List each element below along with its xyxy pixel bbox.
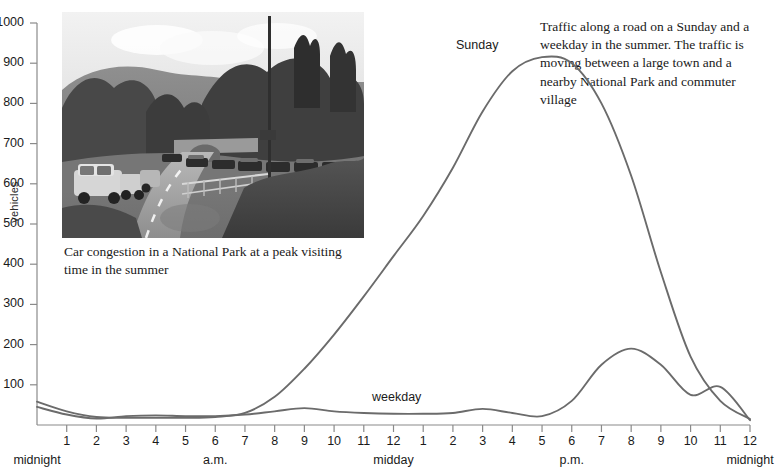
y-tick-200: 200 (0, 337, 24, 351)
x-tick-7: 7 (231, 434, 259, 448)
y-tick-800: 800 (0, 95, 24, 109)
y-tick-1000: 1000 (0, 15, 24, 29)
x-tick-9: 9 (290, 434, 318, 448)
x-tick-16: 4 (498, 434, 526, 448)
x-tick-10: 10 (320, 434, 348, 448)
x-tick-12: 12 (380, 434, 408, 448)
x-tick-6: 6 (201, 434, 229, 448)
x-tick-22: 10 (677, 434, 705, 448)
x-tick-19: 7 (587, 434, 615, 448)
x-period-0: midnight (0, 453, 82, 467)
y-tick-700: 700 (0, 136, 24, 150)
x-tick-23: 11 (706, 434, 734, 448)
y-tick-100: 100 (0, 377, 24, 391)
x-tick-21: 9 (647, 434, 675, 448)
x-period-3: p.m. (527, 453, 617, 467)
x-tick-8: 8 (261, 434, 289, 448)
y-tick-600: 600 (0, 176, 24, 190)
x-tick-3: 3 (112, 434, 140, 448)
x-tick-13: 1 (409, 434, 437, 448)
x-period-2: midday (349, 453, 439, 467)
x-tick-5: 5 (172, 434, 200, 448)
x-tick-14: 2 (439, 434, 467, 448)
y-tick-900: 900 (0, 55, 24, 69)
x-tick-17: 5 (528, 434, 556, 448)
y-tick-500: 500 (0, 216, 24, 230)
x-tick-2: 2 (82, 434, 110, 448)
x-tick-18: 6 (558, 434, 586, 448)
x-tick-1: 1 (53, 434, 81, 448)
x-period-4: midnight (705, 453, 779, 467)
y-tick-300: 300 (0, 296, 24, 310)
x-period-1: a.m. (170, 453, 260, 467)
x-tick-11: 11 (350, 434, 378, 448)
x-tick-15: 3 (469, 434, 497, 448)
x-tick-20: 8 (617, 434, 645, 448)
y-tick-400: 400 (0, 256, 24, 270)
x-tick-4: 4 (142, 434, 170, 448)
x-tick-24: 12 (736, 434, 764, 448)
